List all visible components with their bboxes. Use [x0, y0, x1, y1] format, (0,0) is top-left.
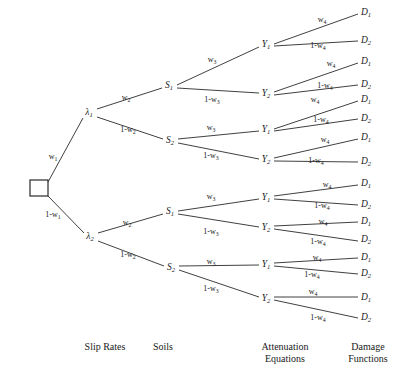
- weight-base: 1-w: [120, 250, 132, 259]
- node-subscript: 2: [267, 226, 270, 233]
- branch-weight-label: 1-w3: [203, 285, 218, 293]
- branch-weight-label: 1-w3: [203, 152, 218, 160]
- tree-node-y2b: Y2: [262, 155, 271, 165]
- tree-edge: [179, 270, 259, 297]
- weight-subscript: 4: [318, 257, 321, 263]
- weight-subscript: 3: [213, 59, 216, 65]
- tree-edge: [178, 199, 259, 211]
- weight-subscript: 4: [323, 241, 326, 247]
- weight-subscript: 1: [58, 214, 61, 220]
- node-base: D: [361, 156, 368, 166]
- node-subscript: 1: [267, 128, 270, 135]
- weight-base: 1-w: [310, 237, 322, 246]
- weight-base: 1-w: [314, 201, 326, 210]
- node-subscript: 1: [368, 296, 371, 303]
- branch-weight-label: w1: [49, 153, 58, 161]
- node-base: D: [361, 312, 368, 322]
- tree-node-y2a: Y2: [262, 89, 271, 99]
- weight-subscript: 4: [321, 160, 324, 166]
- weight-subscript: 4: [327, 205, 330, 211]
- weight-subscript: 3: [216, 231, 219, 237]
- tree-edge: [48, 118, 83, 182]
- node-subscript: 1: [171, 210, 174, 217]
- weight-subscript: 2: [133, 129, 136, 135]
- branch-weight-label: 1-w3: [203, 228, 218, 236]
- tree-node-lambda1: λ1: [85, 108, 92, 118]
- column-label-slip_rates: Slip Rates: [85, 341, 126, 353]
- weight-base: 1-w: [120, 125, 132, 134]
- node-subscript: 2: [368, 117, 371, 124]
- weight-base: 1-w: [310, 313, 322, 322]
- tree-node-y1c: Y1: [262, 193, 271, 203]
- branch-weight-label: 1-w4: [310, 42, 325, 50]
- tree-node-d2_1: D2: [361, 36, 371, 46]
- node-subscript: 2: [368, 39, 371, 46]
- branch-weight-label: 1-w4: [317, 82, 332, 90]
- tree-node-d1_5: D1: [361, 179, 371, 189]
- node-subscript: 1: [368, 11, 371, 18]
- column-label-soils: Soils: [153, 341, 173, 353]
- tree-node-y1a: Y1: [262, 40, 271, 50]
- weight-subscript: 4: [324, 221, 327, 227]
- node-subscript: 2: [368, 272, 371, 279]
- node-base: D: [361, 178, 368, 188]
- tree-node-d2_6: D2: [361, 235, 371, 245]
- weight-base: 1-w: [308, 156, 320, 165]
- branch-weight-label: w4: [313, 254, 322, 262]
- branch-weight-label: 1-w4: [310, 314, 325, 322]
- branch-weight-label: 1-w4: [310, 238, 325, 246]
- node-base: D: [361, 252, 368, 262]
- node-base: D: [361, 79, 368, 89]
- tree-node-lambda2: λ2: [86, 232, 93, 242]
- weight-base: 1-w: [45, 210, 57, 219]
- weight-base: w: [327, 59, 333, 68]
- weight-base: 1-w: [304, 270, 316, 279]
- weight-base: w: [49, 152, 55, 161]
- branch-weight-label: w4: [319, 218, 328, 226]
- weight-subscript: 4: [330, 85, 333, 91]
- tree-node-y1b: Y1: [262, 125, 271, 135]
- weight-base: 1-w: [203, 151, 215, 160]
- node-base: D: [361, 35, 368, 45]
- weight-base: w: [122, 93, 128, 102]
- node-subscript: 1: [267, 196, 270, 203]
- branch-weight-label: w2: [122, 94, 131, 102]
- tree-edge: [179, 265, 259, 266]
- weight-subscript: 4: [323, 317, 326, 323]
- tree-node-y2d: Y2: [262, 294, 271, 304]
- tree-node-s1b: S1: [166, 207, 174, 217]
- branch-weight-label: 1-w1: [45, 211, 60, 219]
- node-base: D: [361, 132, 368, 142]
- weight-base: 1-w: [310, 41, 322, 50]
- branch-weight-label: w3: [207, 258, 216, 266]
- tree-edge: [274, 85, 358, 95]
- weight-base: w: [207, 123, 213, 132]
- weight-base: w: [318, 15, 324, 24]
- node-subscript: 2: [368, 160, 371, 167]
- branch-weight-label: w2: [123, 219, 132, 227]
- weight-base: 1-w: [203, 284, 215, 293]
- tree-edge: [274, 14, 358, 44]
- node-subscript: 2: [267, 92, 270, 99]
- node-base: D: [361, 7, 368, 17]
- weight-base: w: [321, 135, 327, 144]
- weight-subscript: 4: [314, 291, 317, 297]
- weight-subscript: 4: [328, 184, 331, 190]
- weight-subscript: 2: [127, 97, 130, 103]
- tree-node-s1a: S1: [165, 81, 173, 91]
- node-subscript: 2: [171, 139, 174, 146]
- weight-subscript: 3: [212, 196, 215, 202]
- node-subscript: 1: [368, 220, 371, 227]
- weight-subscript: 4: [317, 274, 320, 280]
- tree-edge: [177, 47, 259, 85]
- tree-edge: [274, 185, 358, 196]
- tree-edges-canvas: [0, 0, 400, 369]
- tree-edge: [178, 131, 259, 139]
- node-base: D: [361, 113, 368, 123]
- tree-edge: [274, 63, 358, 92]
- weight-base: 1-w: [203, 227, 215, 236]
- column-label-damage: Damage Functions: [348, 341, 387, 365]
- weight-base: w: [207, 257, 213, 266]
- node-base: D: [361, 199, 368, 209]
- weight-subscript: 4: [326, 139, 329, 145]
